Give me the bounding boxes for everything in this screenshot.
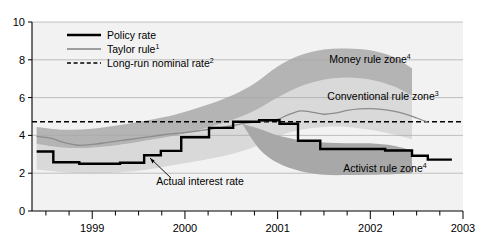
legend-label-policy-rate: Policy rate: [107, 29, 156, 41]
y-tick-label-6: 6: [19, 92, 25, 104]
interest-rate-chart: 024681019992000200120022003 Policy rateT…: [0, 0, 492, 242]
annotation-activist-rule-zone: Activist rule zone4: [343, 162, 426, 174]
x-tick-label-2002: 2002: [358, 222, 382, 234]
legend-label-long-run-nominal-rate: Long-run nominal rate2: [107, 57, 214, 69]
chart-container: 024681019992000200120022003 Policy rateT…: [0, 0, 492, 242]
legend-label-taylor-rule: Taylor rule1: [107, 43, 159, 55]
y-tick-label-10: 10: [13, 16, 25, 28]
x-tick-label-2003: 2003: [451, 222, 475, 234]
x-tick-label-2000: 2000: [173, 222, 197, 234]
x-tick-label-2001: 2001: [265, 222, 289, 234]
y-tick-label-4: 4: [19, 129, 25, 141]
annotation-money-rule-zone: Money rule zone4: [329, 53, 411, 65]
y-tick-label-8: 8: [19, 54, 25, 66]
y-tick-label-2: 2: [19, 167, 25, 179]
x-tick-label-1999: 1999: [80, 222, 104, 234]
y-tick-label-0: 0: [19, 205, 25, 217]
annotation-conventional-rule-zone: Conventional rule zone3: [327, 90, 438, 102]
